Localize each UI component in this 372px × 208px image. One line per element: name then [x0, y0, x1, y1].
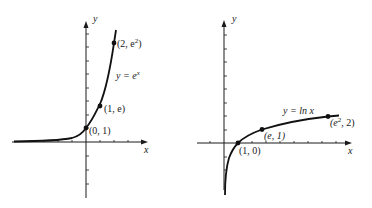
exp-point-label-0-1: (0, 1)	[89, 125, 111, 137]
ln-x-axis-label: x	[347, 145, 353, 156]
exp-point-label-1-e: (1, e)	[104, 103, 125, 115]
exp-point-label-2-e2: (2, e2)	[117, 37, 142, 50]
ln-graph: y x (1, 0) (e, 1) (e2, 2) y = ln x	[197, 13, 355, 195]
exp-y-axis-label: y	[92, 13, 98, 24]
exp-point-0-1	[84, 126, 89, 131]
exp-curve-label: y = ex	[115, 69, 141, 81]
exp-x-axis-label: x	[143, 144, 149, 155]
ln-curve-label: y = ln x	[282, 105, 314, 116]
ln-point-label-e2-2: (e2, 2)	[330, 116, 355, 129]
exp-graph: y x (0, 1) (1, e) (2, e2) y = ex	[12, 13, 149, 198]
exp-point-2-e2	[112, 41, 117, 46]
exp-point-1-e	[98, 104, 103, 109]
ln-point-label-e-1: (e, 1)	[264, 130, 286, 142]
ln-point-label-1-0: (1, 0)	[239, 145, 261, 157]
exp-y-arrow-icon	[84, 21, 89, 28]
ln-y-arrow-icon	[222, 20, 227, 27]
diagram-canvas: y x (0, 1) (1, e) (2, e2) y = ex	[0, 0, 372, 208]
ln-y-axis-label: y	[231, 13, 237, 24]
